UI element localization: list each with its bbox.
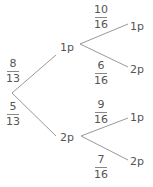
node-1p-1p: 1p: [130, 21, 144, 32]
denominator: 16: [94, 74, 108, 87]
numerator: 10: [94, 3, 108, 16]
node-1p-2p: 2p: [130, 64, 144, 75]
numerator: 7: [98, 153, 105, 166]
prob-1p-2p: 6 16: [93, 60, 109, 87]
node-2p: 2p: [60, 132, 74, 143]
node-2p-2p: 2p: [130, 156, 144, 167]
numerator: 6: [98, 59, 105, 72]
prob-2p-1p: 9 16: [93, 99, 109, 126]
prob-root-1p: 8 13: [5, 58, 21, 85]
numerator: 8: [10, 57, 17, 70]
denominator: 16: [94, 113, 108, 126]
node-1p: 1p: [60, 42, 74, 53]
numerator: 5: [10, 100, 17, 113]
prob-1p-1p: 10 16: [93, 4, 109, 31]
denominator: 13: [6, 72, 20, 85]
node-2p-1p: 1p: [130, 112, 144, 123]
prob-root-2p: 5 13: [5, 101, 21, 128]
prob-2p-2p: 7 16: [93, 154, 109, 181]
denominator: 13: [6, 115, 20, 128]
numerator: 9: [98, 98, 105, 111]
denominator: 16: [94, 18, 108, 31]
denominator: 16: [94, 168, 108, 181]
